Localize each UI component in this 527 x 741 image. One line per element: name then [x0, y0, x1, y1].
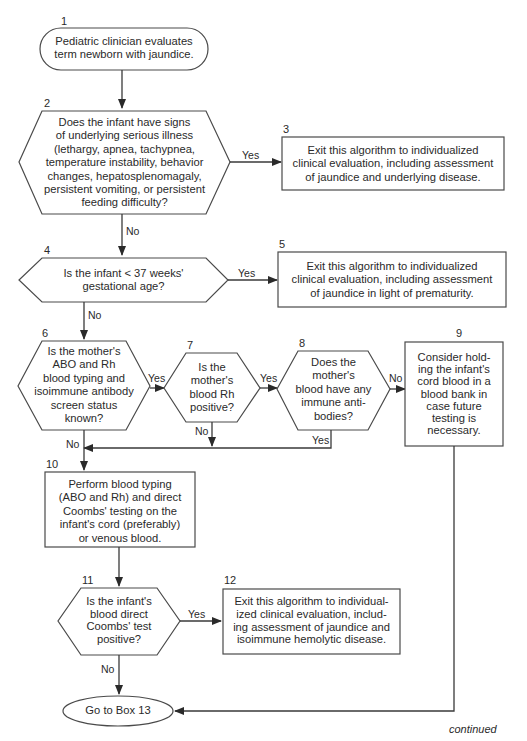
node-10-line: Perform blood typing — [45, 478, 195, 491]
node-4-line: gestational age? — [19, 280, 228, 293]
node-2-line: persistent vomiting, or persistent — [19, 183, 230, 196]
node-10-text: Perform blood typing (ABO and Rh) and di… — [45, 478, 195, 545]
node-7-text: Is the mother's blood Rh positive? — [164, 361, 260, 415]
edge-7-no-label: No — [195, 425, 209, 437]
node-1-number: 1 — [61, 15, 67, 27]
node-6-line: known? — [18, 412, 150, 425]
node-10-line: (ABO and Rh) and direct — [45, 491, 195, 504]
node-6-line: screen status — [18, 399, 150, 412]
node-2-line: changes, hepatosplenomagaly, — [19, 170, 230, 183]
edge-2-no-label: No — [126, 225, 140, 237]
node-7-line: blood Rh — [164, 388, 260, 401]
node-10-line: infant's cord (preferably) — [45, 518, 195, 531]
edge-4-no-label: No — [88, 309, 102, 321]
node-11-line: positive? — [58, 633, 180, 646]
node-9-line: cord blood in a — [405, 375, 503, 387]
node-2-line: (lethargy, apnea, tachypnea, — [19, 143, 230, 156]
node-2-number: 2 — [44, 97, 50, 109]
edge-6-no-label: No — [66, 438, 80, 450]
node-2-line: Does the infant have signs — [19, 116, 230, 129]
node-4-line: Is the infant < 37 weeks' — [19, 267, 228, 280]
edge-11-yes-label: Yes — [188, 608, 205, 620]
node-8-line: bodies? — [277, 410, 390, 423]
node-8-line: mother's — [277, 369, 390, 382]
node-10-line: or venous blood. — [45, 532, 195, 545]
node-13-line: Go to Box 13 — [63, 704, 173, 717]
node-3-line: Exit this algorithm to individualized — [282, 144, 504, 157]
node-1-line: Pediatric clinician evaluates — [40, 35, 208, 48]
node-6-line: ABO and Rh — [18, 358, 150, 371]
edge-11-no-label: No — [101, 663, 115, 675]
node-6-line: Is the mother's — [18, 345, 150, 358]
node-5-line: clinical evaluation, including assessmen… — [278, 273, 506, 286]
node-5-line: of jaundice in light of prematurity. — [278, 287, 506, 300]
node-4-number: 4 — [44, 244, 50, 256]
node-11-line: blood direct — [58, 608, 180, 621]
node-11-number: 11 — [82, 574, 93, 586]
node-6-line: blood typing and — [18, 372, 150, 385]
edge-2-yes-label: Yes — [242, 149, 259, 161]
node-2-line: feeding difficulty? — [19, 196, 230, 209]
node-9-line: necessary. — [405, 424, 503, 436]
node-7-number: 7 — [187, 339, 193, 351]
node-5-text: Exit this algorithm to individualized cl… — [278, 260, 506, 300]
node-9-line: case future — [405, 400, 503, 412]
node-8-line: blood have any — [277, 383, 390, 396]
node-12-line: isoimmune hemolytic disease. — [223, 633, 400, 646]
node-2-line: temperature instability, behavior — [19, 156, 230, 169]
node-5-line: Exit this algorithm to individualized — [278, 260, 506, 273]
node-7-line: mother's — [164, 374, 260, 387]
node-6-line: isoimmune antibody — [18, 385, 150, 398]
edge-8-no-label: No — [389, 372, 403, 384]
node-13-text: Go to Box 13 — [63, 704, 173, 717]
node-1-text: Pediatric clinician evaluates term newbo… — [40, 35, 208, 62]
node-12-line: ing assessment of jaundice and — [223, 621, 400, 634]
node-9-line: Consider hold- — [405, 351, 503, 363]
node-9-text: Consider hold- ing the infant's cord blo… — [405, 351, 503, 436]
node-10-line: Coombs' testing on the — [45, 505, 195, 518]
node-1-line: term newborn with jaundice. — [40, 48, 208, 61]
node-8-number: 8 — [299, 337, 305, 349]
node-6-number: 6 — [42, 327, 48, 339]
node-11-text: Is the infant's blood direct Coombs' tes… — [58, 595, 180, 645]
node-2-text: Does the infant have signs of underlying… — [19, 116, 230, 210]
node-3-line: clinical evaluation, including assessmen… — [282, 157, 504, 170]
node-2-line: of underlying serious illness — [19, 129, 230, 142]
continued-label: continued — [449, 723, 497, 735]
node-10-number: 10 — [46, 458, 58, 470]
node-8-line: Does the — [277, 356, 390, 369]
node-5-number: 5 — [279, 238, 285, 250]
node-12-line: Exit this algorithm to individual- — [223, 595, 400, 608]
node-12-number: 12 — [224, 574, 236, 586]
node-8-line: immune anti- — [277, 396, 390, 409]
node-4-text: Is the infant < 37 weeks' gestational ag… — [19, 267, 228, 294]
edge-9-to-13 — [175, 446, 454, 711]
node-9-number: 9 — [456, 327, 462, 339]
node-9-line: testing is — [405, 412, 503, 424]
edge-7-yes-label: Yes — [260, 372, 277, 384]
edge-8-yes-label: Yes — [312, 434, 329, 446]
node-3-text: Exit this algorithm to individualized cl… — [282, 144, 504, 184]
node-3-number: 3 — [283, 123, 289, 135]
node-8-text: Does the mother's blood have any immune … — [277, 356, 390, 423]
node-7-line: positive? — [164, 401, 260, 414]
node-9-line: blood bank in — [405, 388, 503, 400]
edge-4-yes-label: Yes — [238, 267, 255, 279]
edge-6-yes-label: Yes — [148, 372, 165, 384]
node-12-line: ized clinical evaluation, includ- — [223, 608, 400, 621]
node-9-line: ing the infant's — [405, 363, 503, 375]
node-12-text: Exit this algorithm to individual- ized … — [223, 595, 400, 646]
node-6-text: Is the mother's ABO and Rh blood typing … — [18, 345, 150, 425]
node-11-line: Is the infant's — [58, 595, 180, 608]
node-11-line: Coombs' test — [58, 620, 180, 633]
node-7-line: Is the — [164, 361, 260, 374]
node-3-line: of jaundice and underlying disease. — [282, 171, 504, 184]
